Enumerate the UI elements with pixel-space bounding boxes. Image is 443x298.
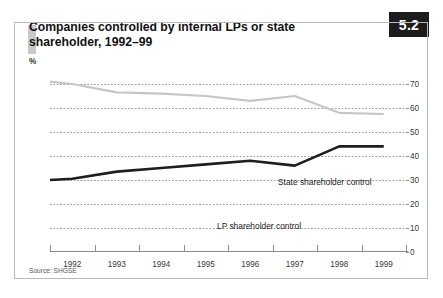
line-lp-shareholder-control bbox=[50, 146, 384, 180]
plot-area: 010203040506070 199219931994199519961997… bbox=[50, 84, 406, 252]
source-note: Source: SHGSE bbox=[29, 267, 77, 274]
x-axis-label-1997: 1997 bbox=[275, 260, 315, 269]
annotation-state-shareholder-control: State shareholder control bbox=[278, 177, 372, 187]
y-tick-mark-50 bbox=[406, 132, 409, 133]
figure-title: Companies controlled by internal LPs or … bbox=[29, 20, 329, 49]
x-tick-mark-end bbox=[406, 245, 407, 252]
x-axis-label-1994: 1994 bbox=[141, 260, 181, 269]
y-tick-label-0: 0 bbox=[410, 248, 436, 257]
x-axis-label-1998: 1998 bbox=[319, 260, 359, 269]
x-axis-label-1993: 1993 bbox=[97, 260, 137, 269]
y-tick-mark-0 bbox=[406, 252, 409, 253]
y-tick-mark-70 bbox=[406, 84, 409, 85]
y-tick-label-20: 20 bbox=[410, 200, 436, 209]
figure-panel: 5.2 Companies controlled by internal LPs… bbox=[14, 12, 429, 280]
y-tick-label-50: 50 bbox=[410, 128, 436, 137]
figure-number-badge: 5.2 bbox=[389, 12, 429, 37]
y-tick-label-40: 40 bbox=[410, 152, 436, 161]
unit-label: % bbox=[29, 57, 36, 66]
y-tick-mark-30 bbox=[406, 180, 409, 181]
y-tick-mark-20 bbox=[406, 204, 409, 205]
line-state-shareholder-control bbox=[50, 82, 384, 114]
y-tick-label-30: 30 bbox=[410, 176, 436, 185]
y-tick-label-70: 70 bbox=[410, 80, 436, 89]
y-tick-mark-60 bbox=[406, 108, 409, 109]
y-tick-mark-10 bbox=[406, 228, 409, 229]
annotation-lp-shareholder-control: LP shareholder control bbox=[217, 221, 301, 231]
y-tick-mark-40 bbox=[406, 156, 409, 157]
y-tick-label-60: 60 bbox=[410, 104, 436, 113]
x-axis-label-1996: 1996 bbox=[230, 260, 270, 269]
x-axis-label-1999: 1999 bbox=[364, 260, 404, 269]
x-axis-label-1995: 1995 bbox=[186, 260, 226, 269]
y-tick-label-10: 10 bbox=[410, 224, 436, 233]
